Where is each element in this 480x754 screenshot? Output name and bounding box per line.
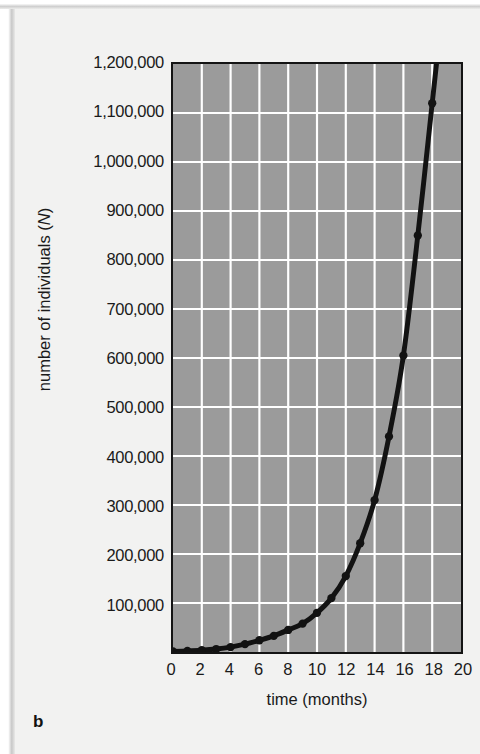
data-point	[327, 594, 335, 602]
data-point	[342, 572, 350, 580]
y-axis-title: number of individuals (N)	[35, 170, 54, 430]
data-point	[255, 636, 263, 644]
y-tick-label: 800,000	[52, 250, 164, 269]
page-edge-left	[0, 0, 15, 754]
y-tick-label: 300,000	[52, 497, 164, 516]
y-tick-label: 1,200,000	[52, 53, 164, 72]
x-tick-label: 4	[225, 660, 234, 679]
y-axis-title-suffix: )	[35, 208, 53, 214]
data-point	[198, 646, 206, 652]
panel-label: b	[33, 712, 43, 732]
y-tick-label: 900,000	[52, 201, 164, 220]
x-tick-label: 10	[308, 660, 326, 679]
plot-area	[171, 62, 463, 654]
x-tick-label: 6	[254, 660, 263, 679]
data-point	[284, 626, 292, 634]
data-point	[212, 645, 220, 652]
data-series-exponential-growth	[173, 64, 461, 652]
data-point	[226, 643, 234, 651]
x-tick-label: 0	[166, 660, 175, 679]
y-tick-label: 600,000	[52, 349, 164, 368]
y-tick-label: 200,000	[52, 546, 164, 565]
data-point	[183, 647, 191, 652]
page-edge-top	[0, 0, 480, 9]
data-point	[399, 351, 407, 359]
data-point	[428, 99, 436, 107]
x-tick-label: 18	[425, 660, 443, 679]
x-tick-label: 8	[283, 660, 292, 679]
y-tick-label: 500,000	[52, 398, 164, 417]
data-point	[298, 619, 306, 627]
x-tick-label: 20	[454, 660, 472, 679]
y-tick-label: 700,000	[52, 299, 164, 318]
data-point	[173, 647, 177, 652]
data-point	[356, 539, 364, 547]
y-axis-title-prefix: number of individuals (	[35, 225, 53, 391]
y-axis-title-symbol: N	[35, 213, 53, 225]
y-tick-label: 1,000,000	[52, 151, 164, 170]
data-point	[270, 632, 278, 640]
data-point	[241, 640, 249, 648]
x-tick-label: 2	[196, 660, 205, 679]
x-axis-title: time (months)	[171, 690, 463, 709]
x-tick-label: 16	[395, 660, 413, 679]
series-line	[173, 64, 436, 652]
data-point	[313, 609, 321, 617]
data-point	[370, 496, 378, 504]
data-point	[414, 231, 422, 239]
y-tick-label: 1,100,000	[52, 102, 164, 121]
figure-panel-b: 100,000200,000300,000400,000500,000600,0…	[0, 0, 480, 754]
y-tick-label: 100,000	[52, 595, 164, 614]
data-point	[385, 432, 393, 440]
y-tick-label: 400,000	[52, 447, 164, 466]
x-tick-label: 12	[337, 660, 355, 679]
x-tick-label: 14	[366, 660, 384, 679]
